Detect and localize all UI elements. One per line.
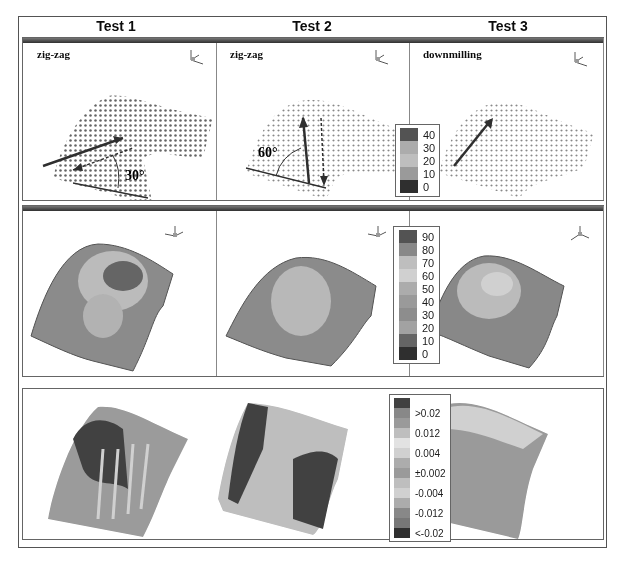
legend-item: 40 <box>400 128 435 141</box>
legend-item <box>394 458 446 468</box>
angle-label: 30° <box>125 168 145 184</box>
legend-item: 0.012 <box>394 428 446 438</box>
legend-item: 80 <box>399 243 434 256</box>
deviation-surfaces <box>23 389 603 539</box>
legend-item: 0 <box>400 180 435 193</box>
legend-item: 50 <box>399 282 434 295</box>
legend-item: 90 <box>399 230 434 243</box>
legend-item: -0.012 <box>394 508 446 518</box>
legend-item: 30 <box>400 141 435 154</box>
legend-row-3: >0.02 0.012 0.004 ±0.002 -0.004 -0.012 <… <box>389 394 451 542</box>
legend-item: ±0.002 <box>394 468 446 478</box>
legend-item <box>394 498 446 508</box>
legend-item: 40 <box>399 295 434 308</box>
legend-item <box>394 438 446 448</box>
legend-item: 10 <box>399 334 434 347</box>
panel-test-2-colormap <box>216 206 410 376</box>
legend-item: 30 <box>399 308 434 321</box>
legend-row-1: 40 30 20 10 0 <box>395 124 440 197</box>
column-title-test-2: Test 2 <box>214 18 410 34</box>
legend-item: 0 <box>399 347 434 360</box>
row-tool-paths: zig-zag 30° zig-zag <box>22 37 604 201</box>
angle-label: 60° <box>258 145 278 161</box>
row-deviation-maps: >0.02 0.012 0.004 ±0.002 -0.004 -0.012 <… <box>22 388 604 540</box>
panel-test-1-toolpath: zig-zag 30° <box>23 38 217 200</box>
legend-item: 60 <box>399 269 434 282</box>
legend-item <box>394 418 446 428</box>
colormap-surface <box>216 206 409 376</box>
legend-row-2: 90 80 70 60 50 40 30 20 10 0 <box>393 226 440 364</box>
column-title-test-3: Test 3 <box>410 18 606 34</box>
legend-item <box>394 518 446 528</box>
legend-item: 0.004 <box>394 448 446 458</box>
legend-item: 70 <box>399 256 434 269</box>
legend-item: -0.004 <box>394 488 446 498</box>
legend-item: 10 <box>400 167 435 180</box>
row-surface-colormaps: 90 80 70 60 50 40 30 20 10 0 <box>22 205 604 377</box>
legend-item <box>394 398 446 408</box>
legend-item: >0.02 <box>394 408 446 418</box>
colormap-surface <box>23 206 216 376</box>
column-title-test-1: Test 1 <box>18 18 214 34</box>
legend-item: <-0.02 <box>394 528 446 538</box>
panel-test-1-colormap <box>23 206 217 376</box>
point-cloud-surface <box>23 38 216 200</box>
column-headers: Test 1 Test 2 Test 3 <box>18 16 605 36</box>
point-cloud-surface <box>216 38 409 200</box>
legend-item: 20 <box>399 321 434 334</box>
panel-test-2-toolpath: zig-zag 60° <box>216 38 410 200</box>
legend-item <box>394 478 446 488</box>
legend-item: 20 <box>400 154 435 167</box>
